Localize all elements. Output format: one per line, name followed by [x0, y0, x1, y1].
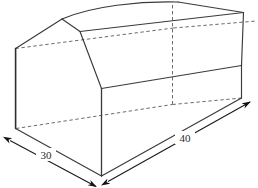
gable-left-hip: [62, 19, 80, 32]
roof-ridge-front: [62, 2, 178, 19]
gable-left-edge: [80, 32, 102, 89]
front-right-base-edge: [102, 98, 242, 176]
dimension-30-line: [10, 141, 96, 187]
barn-prism-figure: 30 40: [0, 0, 258, 188]
dimension-40-label: 40: [180, 132, 192, 144]
front-roof-eave-bottom: [102, 66, 242, 89]
hidden-floor-edge-left: [16, 105, 173, 129]
front-roof-eave-top: [80, 13, 244, 32]
hidden-back-eave-right: [174, 21, 257, 28]
dimension-30: 30: [10, 141, 96, 187]
hidden-back-eave: [16, 28, 174, 49]
right-gable-edge: [242, 13, 244, 66]
dimension-40: 40: [108, 102, 250, 182]
diagram-canvas: of solid: [0, 0, 258, 188]
right-roof-slope: [178, 2, 244, 13]
front-left-base-edge: [16, 129, 102, 177]
roof-left-slope: [16, 19, 62, 49]
dimension-30-label: 30: [41, 149, 53, 161]
